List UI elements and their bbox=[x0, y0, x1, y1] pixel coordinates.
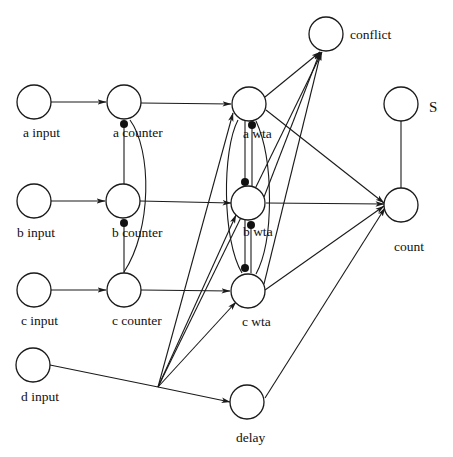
label-b-counter: b counter bbox=[112, 225, 163, 240]
edge-c-wta-to-count bbox=[265, 206, 384, 290]
label-count: count bbox=[394, 239, 424, 254]
labels: a input b input c input d input a counte… bbox=[17, 27, 437, 445]
node-b-counter bbox=[106, 184, 140, 218]
label-d-input: d input bbox=[21, 389, 59, 404]
edge-c-counter-to-c-wta bbox=[141, 290, 230, 291]
nodes bbox=[16, 17, 418, 419]
node-s bbox=[384, 87, 418, 121]
node-a-counter bbox=[107, 85, 141, 119]
edge-c-wta-to-conflict bbox=[264, 52, 321, 284]
node-c-wta bbox=[231, 274, 265, 308]
node-d-input bbox=[16, 348, 50, 382]
node-delay bbox=[230, 385, 264, 419]
edge-d-input-to-fanout bbox=[50, 365, 158, 387]
label-b-input: b input bbox=[17, 225, 55, 240]
label-a-wta: a wta bbox=[243, 126, 272, 141]
label-s: S bbox=[429, 99, 437, 115]
label-c-counter: c counter bbox=[112, 313, 162, 328]
edge-a-counter-to-a-wta bbox=[141, 103, 231, 104]
node-count bbox=[384, 188, 418, 222]
node-a-input bbox=[17, 85, 51, 119]
node-b-wta bbox=[231, 186, 265, 220]
edges bbox=[50, 52, 401, 402]
node-c-counter bbox=[107, 273, 141, 307]
label-a-input: a input bbox=[23, 125, 60, 140]
edge-b-counter-to-b-wta bbox=[140, 201, 231, 203]
node-c-input bbox=[17, 273, 51, 307]
label-a-counter: a counter bbox=[113, 125, 163, 140]
node-a-wta bbox=[232, 87, 266, 121]
node-conflict bbox=[309, 17, 343, 51]
label-c-input: c input bbox=[21, 313, 58, 328]
edge-d-input-to-delay bbox=[158, 387, 230, 402]
edge-a-wta-to-count bbox=[266, 110, 384, 203]
inhibitory-terminal-b-wta-top bbox=[241, 178, 249, 186]
inhibitory-terminal-c-wta bbox=[241, 264, 249, 272]
label-delay: delay bbox=[236, 430, 265, 445]
network-diagram: a input b input c input d input a counte… bbox=[0, 0, 453, 457]
node-b-input bbox=[17, 184, 51, 218]
label-b-wta: b wta bbox=[243, 224, 273, 239]
label-c-wta: c wta bbox=[242, 314, 271, 329]
edge-d-input-to-b-wta bbox=[158, 215, 236, 387]
edge-delay-to-count bbox=[265, 208, 385, 398]
label-conflict: conflict bbox=[350, 27, 391, 42]
